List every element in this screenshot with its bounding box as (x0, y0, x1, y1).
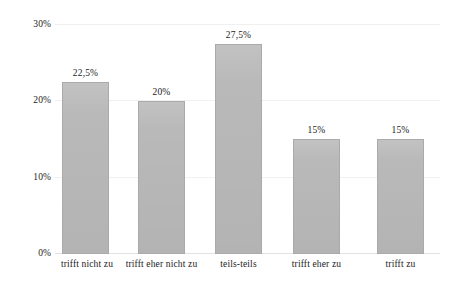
x-axis-category-label: trifft zu (361, 259, 440, 269)
y-axis-tick-label: 0% (7, 248, 51, 258)
y-axis-tick-label: 30% (7, 19, 51, 29)
y-axis-tick-label: 20% (7, 95, 51, 105)
x-axis-category-label: trifft eher zu (272, 259, 361, 269)
y-axis: 30% 20% 10% 0% (0, 0, 51, 283)
x-axis: trifft nicht zu trifft eher nicht zu tei… (55, 0, 440, 283)
x-axis-category-label: teils-teils (198, 259, 279, 269)
y-axis-tick-label: 10% (7, 172, 51, 182)
bar-chart: 30% 20% 10% 0% 22,5% 20% 27,5% (0, 0, 451, 283)
